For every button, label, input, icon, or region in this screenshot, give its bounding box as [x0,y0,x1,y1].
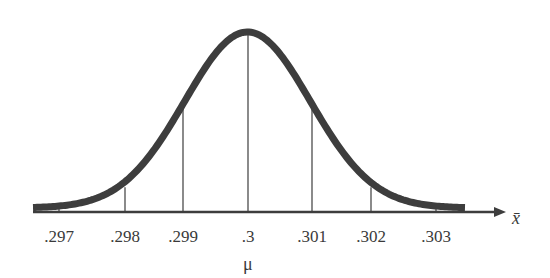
tick-labels: .297.298.299.3.301.302.303 [44,227,451,246]
normal-curve-chart: .297.298.299.3.301.302.303 x̄ μ [0,0,550,278]
tick-label: .303 [421,227,451,246]
normal-curve [33,32,465,208]
x-axis-arrow-icon [494,207,506,217]
tick-label: .299 [168,227,198,246]
tick-label: .3 [242,227,255,246]
mu-label: μ [243,254,253,274]
x-axis-label: x̄ [511,208,520,228]
tick-label: .302 [356,227,386,246]
tick-label: .297 [44,227,74,246]
tick-label: .298 [110,227,140,246]
tick-label: .301 [297,227,327,246]
